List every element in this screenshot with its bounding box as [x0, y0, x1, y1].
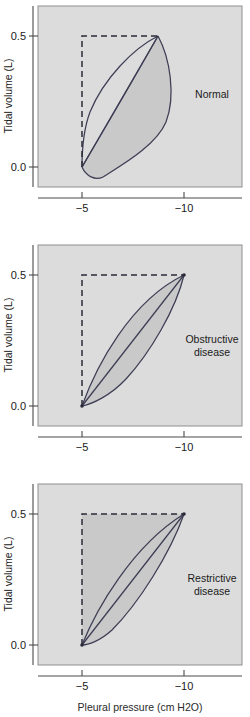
panel-annotation-obstructive-line1: Obstructive	[185, 333, 238, 345]
panel-annotation-obstructive-line2: disease	[194, 346, 230, 358]
panel-annotation-restrictive-line2: disease	[194, 585, 230, 597]
x-tick-label-minus10: −10	[175, 680, 194, 692]
panel-restrictive: 0.5 0.0 Tidal volume (L) −5 −10 Restrict…	[0, 478, 250, 717]
panel-normal: 0.5 0.0 Tidal volume (L) −5 −10 Normal	[0, 0, 250, 239]
loop-startpoint-marker	[80, 643, 84, 647]
y-axis-title: Tidal volume (L)	[2, 59, 14, 134]
x-tick-label-minus10: −10	[175, 202, 194, 214]
y-tick-label-upper: 0.5	[11, 30, 26, 42]
panel-obstructive-chart: 0.5 0.0 Tidal volume (L) −5 −10 Obstruct…	[0, 239, 250, 478]
y-tick-label-upper: 0.5	[11, 508, 26, 520]
panel-obstructive: 0.5 0.0 Tidal volume (L) −5 −10 Obstruct…	[0, 239, 250, 478]
x-tick-label-minus5: −5	[76, 202, 89, 214]
loop-startpoint-marker	[80, 404, 84, 408]
y-tick-label-lower: 0.0	[11, 400, 26, 412]
x-tick-label-minus5: −5	[76, 680, 89, 692]
x-tick-label-minus5: −5	[76, 441, 89, 453]
panel-annotation-normal: Normal	[195, 88, 229, 100]
x-tick-label-minus10: −10	[175, 441, 194, 453]
panel-annotation-restrictive-line1: Restrictive	[187, 572, 236, 584]
panel-restrictive-chart: 0.5 0.0 Tidal volume (L) −5 −10 Restrict…	[0, 478, 250, 717]
y-tick-label-lower: 0.0	[11, 639, 26, 651]
loop-endpoint-marker	[182, 273, 186, 277]
y-tick-label-lower: 0.0	[11, 161, 26, 173]
y-tick-label-upper: 0.5	[11, 269, 26, 281]
y-axis-title: Tidal volume (L)	[2, 298, 14, 373]
y-axis-title: Tidal volume (L)	[2, 537, 14, 612]
x-axis-title: Pleural pressure (cm H2O)	[78, 701, 203, 713]
loop-endpoint-marker	[182, 512, 186, 516]
panel-normal-chart: 0.5 0.0 Tidal volume (L) −5 −10 Normal	[0, 0, 250, 239]
pressure-volume-loop-figure: 0.5 0.0 Tidal volume (L) −5 −10 Normal	[0, 0, 250, 717]
